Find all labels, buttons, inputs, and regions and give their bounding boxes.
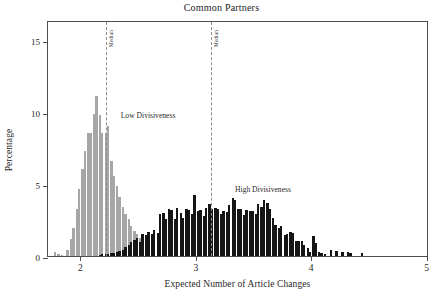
histogram-bar bbox=[268, 209, 270, 256]
y-tick-label: 0 bbox=[36, 253, 41, 263]
histogram-bar bbox=[320, 253, 322, 256]
median-label: Median bbox=[108, 30, 114, 47]
histogram-bar bbox=[222, 211, 224, 256]
histogram-bar bbox=[61, 255, 63, 256]
histogram-bar bbox=[170, 210, 172, 256]
y-tick-label: 5 bbox=[36, 181, 41, 191]
histogram-bar bbox=[90, 133, 92, 256]
x-tick bbox=[80, 256, 81, 261]
y-tick bbox=[43, 258, 48, 259]
histogram-bar bbox=[147, 232, 149, 256]
histogram-bar bbox=[159, 214, 161, 256]
x-tick bbox=[196, 256, 197, 261]
histogram-bar bbox=[165, 219, 167, 256]
plot-area: MedianMedian Low DivisivenessHigh Divisi… bbox=[47, 21, 428, 257]
chart-figure: Common Partners MedianMedian Low Divisiv… bbox=[0, 0, 443, 300]
histogram-bar bbox=[188, 210, 190, 256]
histogram-bar bbox=[245, 210, 247, 256]
histogram-bar bbox=[153, 230, 155, 256]
y-tick bbox=[43, 42, 48, 43]
histogram-bar bbox=[341, 252, 343, 256]
histogram-bar bbox=[113, 176, 115, 256]
histogram-bar bbox=[292, 233, 294, 256]
histogram-bar bbox=[349, 253, 351, 256]
x-tick bbox=[427, 256, 428, 261]
histogram-bar bbox=[118, 197, 120, 256]
histogram-bar bbox=[324, 254, 326, 256]
x-tick bbox=[311, 256, 312, 261]
histogram-bar bbox=[361, 253, 363, 256]
histogram-bar bbox=[330, 250, 332, 256]
histogram-bar bbox=[274, 225, 276, 256]
y-tick-label: 15 bbox=[31, 37, 40, 47]
histogram-bar bbox=[118, 251, 120, 256]
histogram-bar bbox=[297, 241, 299, 256]
histogram-bar bbox=[113, 253, 115, 256]
x-tick-label: 3 bbox=[193, 263, 198, 273]
histogram-bar bbox=[84, 151, 86, 256]
histogram-bar bbox=[66, 250, 68, 256]
x-tick-label: 4 bbox=[309, 263, 314, 273]
x-axis-label: Expected Number of Article Changes bbox=[47, 279, 428, 289]
chart-title: Common Partners bbox=[0, 2, 443, 13]
median-line bbox=[211, 22, 212, 256]
series-annotation: High Divisiveness bbox=[235, 185, 291, 194]
histogram-bar bbox=[107, 254, 109, 256]
median-label: Median bbox=[213, 30, 219, 47]
histogram-bar bbox=[234, 200, 236, 256]
histogram-bar bbox=[136, 238, 138, 256]
x-tick-label: 2 bbox=[78, 263, 83, 273]
histogram-bar bbox=[124, 247, 126, 256]
histogram-bar bbox=[176, 208, 178, 256]
histogram-bar bbox=[280, 226, 282, 256]
histogram-bar bbox=[182, 218, 184, 256]
histogram-bar bbox=[72, 228, 74, 256]
histogram-bar bbox=[335, 251, 337, 256]
histogram-bar bbox=[251, 211, 253, 256]
histogram-bar bbox=[315, 243, 317, 256]
histogram-bar bbox=[130, 242, 132, 256]
x-tick-label: 5 bbox=[424, 263, 429, 273]
y-axis-label: Percentage bbox=[4, 129, 14, 172]
histogram-bar bbox=[217, 209, 219, 256]
histogram-bar bbox=[286, 234, 288, 256]
histogram-bar bbox=[141, 234, 143, 256]
histogram-bar bbox=[107, 126, 109, 256]
series-annotation: Low Divisiveness bbox=[121, 111, 176, 120]
histogram-bar bbox=[240, 209, 242, 256]
histogram-bar bbox=[101, 254, 103, 256]
histogram-bar bbox=[205, 208, 207, 256]
histogram-bar bbox=[228, 205, 230, 256]
histogram-bar bbox=[101, 133, 103, 256]
histogram-bar bbox=[57, 254, 59, 256]
histogram-bar bbox=[199, 210, 201, 256]
y-tick bbox=[43, 186, 48, 187]
histogram-bar bbox=[193, 195, 195, 256]
y-tick bbox=[43, 114, 48, 115]
median-line bbox=[106, 22, 107, 256]
histogram-bar bbox=[263, 200, 265, 256]
histogram-bar bbox=[303, 245, 305, 256]
histogram-bar bbox=[95, 96, 97, 256]
histogram-bar bbox=[78, 189, 80, 256]
y-tick-label: 10 bbox=[31, 109, 40, 119]
histogram-bar bbox=[54, 252, 56, 256]
histogram-bar bbox=[257, 204, 259, 256]
